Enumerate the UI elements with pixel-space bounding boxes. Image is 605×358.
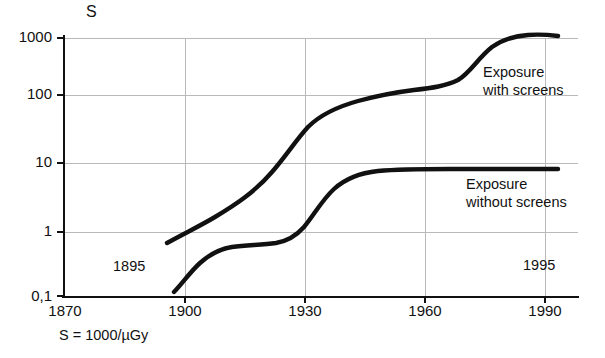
figure-footnote: S = 1000/µGy (59, 327, 148, 343)
y-tick-label-100: 100 (0, 85, 52, 102)
x-tick-label-1930: 1930 (275, 302, 335, 319)
chart-figure: S 1000 100 10 1 0,1 1870 1900 1930 1960 … (0, 0, 605, 358)
x-tick-label-1870: 1870 (35, 302, 95, 319)
y-tick-label-1000: 1000 (0, 28, 52, 45)
annotation-end-year: 1995 (523, 257, 555, 274)
label-with-screens-line1: Exposure (483, 64, 544, 81)
label-with-screens-line2: with screens (483, 82, 564, 99)
y-tick-label-1: 1 (0, 222, 52, 239)
y-axis-title: S (86, 3, 97, 21)
x-tick-label-1960: 1960 (395, 302, 455, 319)
label-without-screens-line2: without screens (466, 194, 567, 211)
y-tick-label-10: 10 (0, 153, 52, 170)
x-tick-label-1900: 1900 (155, 302, 215, 319)
annotation-start-year: 1895 (113, 258, 145, 275)
x-tick-label-1990: 1990 (515, 302, 575, 319)
label-without-screens-line1: Exposure (466, 176, 527, 193)
